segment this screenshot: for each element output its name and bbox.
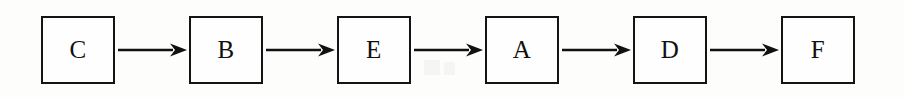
- flow-node-a[interactable]: A: [485, 16, 559, 84]
- arrow-right-icon: [411, 43, 485, 57]
- flow-node-c[interactable]: C: [41, 16, 115, 84]
- flow-node-f[interactable]: F: [781, 16, 855, 84]
- flow-node-label: C: [69, 37, 86, 62]
- flow-arrow-c-to-b: [115, 43, 189, 57]
- flow-arrow-a-to-d: [559, 43, 633, 57]
- flow-node-label: A: [513, 37, 532, 62]
- flow-arrow-e-to-a: [411, 43, 485, 57]
- flow-node-b[interactable]: B: [189, 16, 263, 84]
- flow-node-e[interactable]: E: [337, 16, 411, 84]
- flow-arrow-d-to-f: [707, 43, 781, 57]
- flowchart-canvas: C B E A: [0, 0, 904, 97]
- flow-arrow-b-to-e: [263, 43, 337, 57]
- flow-node-label: F: [811, 37, 825, 62]
- arrow-right-icon: [115, 43, 189, 57]
- flow-node-d[interactable]: D: [633, 16, 707, 84]
- arrow-right-icon: [263, 43, 337, 57]
- flowchart-sequence: C B E A: [41, 15, 855, 84]
- flow-node-label: B: [217, 37, 234, 62]
- arrow-right-icon: [559, 43, 633, 57]
- flow-node-label: E: [366, 37, 382, 62]
- flow-node-label: D: [661, 37, 680, 62]
- arrow-right-icon: [707, 43, 781, 57]
